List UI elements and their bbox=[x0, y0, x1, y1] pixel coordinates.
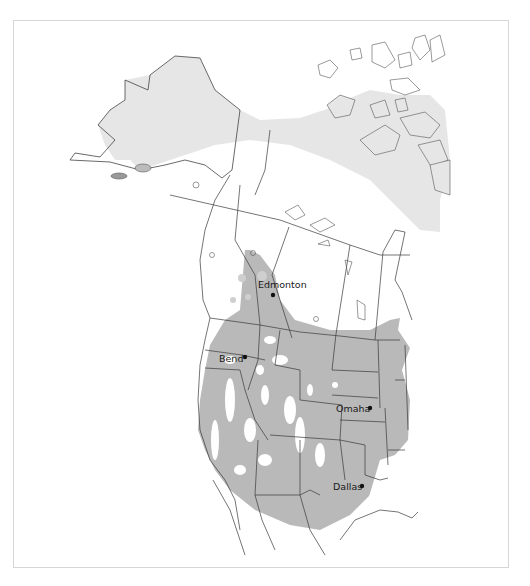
city-dallas: Dallas bbox=[333, 481, 364, 492]
primary-range bbox=[198, 250, 410, 530]
city-bend: Bend bbox=[219, 353, 247, 364]
northern-range-light bbox=[98, 56, 450, 232]
range-map: Edmonton Bend Omaha Dallas bbox=[0, 0, 530, 586]
city-label: Dallas bbox=[333, 481, 362, 492]
city-omaha: Omaha bbox=[336, 403, 372, 414]
city-label: Bend bbox=[219, 353, 243, 364]
city-label: Omaha bbox=[336, 403, 370, 414]
city-label: Edmonton bbox=[258, 279, 307, 290]
